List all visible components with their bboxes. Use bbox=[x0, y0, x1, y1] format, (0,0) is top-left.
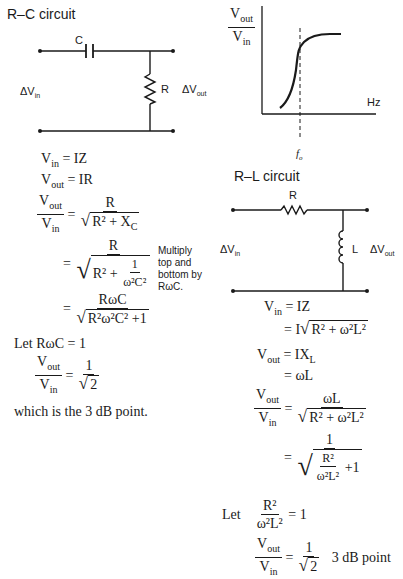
rl-eq-ratio-1: VoutVin = ωL√R² + ω²L² bbox=[254, 387, 368, 432]
rl-terminals bbox=[231, 208, 369, 293]
rc-eq-vin: Vin = IZ bbox=[41, 151, 87, 169]
rc-eq-result: VoutVin = 1√2 bbox=[35, 354, 101, 399]
rc-eq-vout: Vout = IR bbox=[41, 172, 93, 190]
cutoff-frequency-label: fo bbox=[296, 147, 303, 162]
frequency-response-chart bbox=[262, 6, 376, 137]
rc-vout-label: ΔVout bbox=[182, 83, 206, 97]
rc-resistor-label: R bbox=[161, 83, 169, 95]
rc-eq-ratio-1: VoutVin = R√R² + XC bbox=[37, 193, 141, 238]
rc-eq-ratio-3: = RωC√R²ω²C² +1 bbox=[63, 292, 151, 328]
rc-circuit bbox=[40, 44, 173, 131]
rc-title: R–C circuit bbox=[7, 6, 75, 22]
rc-conclusion: which is the 3 dB point. bbox=[14, 404, 148, 420]
chart-x-label: Hz bbox=[367, 96, 380, 108]
rc-multiply-note: Multiplytop andbottom byRωC. bbox=[158, 245, 202, 293]
rl-eq-vin: Vin = IZ bbox=[264, 299, 310, 317]
chart-y-label: VoutVin bbox=[228, 6, 255, 51]
rc-capacitor-label: C bbox=[75, 34, 83, 46]
rl-title: R–L circuit bbox=[234, 168, 300, 184]
rl-eq-vout-2: = ωL bbox=[284, 368, 313, 384]
rl-circuit bbox=[233, 206, 367, 291]
rl-vout-label: ΔVout bbox=[370, 243, 394, 257]
rc-vin-label: ΔVin bbox=[20, 85, 40, 99]
response-curve bbox=[280, 34, 341, 108]
rl-eq-vout: Vout = IXL bbox=[257, 347, 316, 365]
rl-let: Let R²ω²L² = 1 bbox=[222, 498, 307, 533]
rl-inductor-label: L bbox=[352, 243, 358, 255]
rc-let: Let RωC = 1 bbox=[14, 336, 86, 352]
rl-vin-label: ΔVin bbox=[220, 243, 240, 257]
rc-eq-ratio-2: = R√R² + 1ω²C² bbox=[63, 238, 152, 291]
rl-eq-result: VoutVin = 1√2 3 dB point bbox=[255, 536, 391, 579]
rl-eq-vin-2: = I√R² + ω²L² bbox=[284, 320, 368, 339]
rl-eq-ratio-2: = 1√R²ω²L² +1 bbox=[284, 432, 364, 485]
rl-resistor-label: R bbox=[289, 189, 297, 201]
